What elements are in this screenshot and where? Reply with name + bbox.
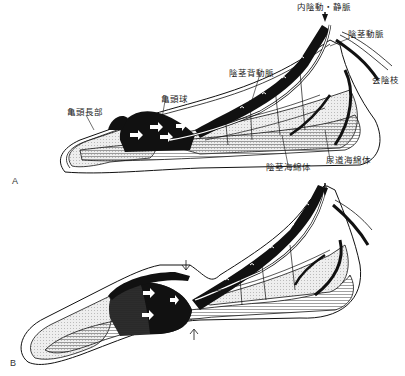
label-corpus-cavernosum: 陰茎海綿体: [266, 163, 311, 172]
label-corpus-spongiosum: 尿道海綿体: [326, 156, 371, 165]
label-glans-distal: 亀頭長部: [67, 108, 103, 117]
label-penile-artery: 陰茎動脈: [348, 30, 384, 39]
label-dorsal-artery: 陰茎背動脈: [229, 69, 274, 78]
panel-b-drawing: [21, 183, 372, 364]
panel-letter-b: B: [10, 358, 16, 368]
label-glans-bulb: 亀頭球: [161, 95, 188, 104]
panel-letter-a: A: [12, 176, 18, 186]
panel-a-drawing: [60, 12, 392, 173]
label-internal-pudendal: 内陰動・静脈: [297, 3, 351, 12]
label-perineal-branch: 会陰枝: [372, 76, 399, 85]
anatomy-diagram: [0, 0, 405, 376]
